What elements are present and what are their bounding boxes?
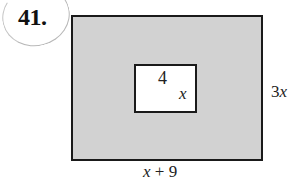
problem-number: 41. <box>18 4 47 31</box>
outer-width-label: x + 9 <box>143 162 177 182</box>
outer-height-text: 3x <box>271 82 287 101</box>
inner-height-label: x <box>179 84 187 104</box>
inner-width-label: 4 <box>158 68 167 89</box>
outer-height-label: 3x <box>271 82 287 102</box>
